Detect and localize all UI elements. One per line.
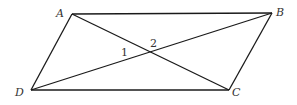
vertex-label-b: B xyxy=(275,6,284,19)
vertex-label-c: C xyxy=(232,86,241,99)
vertex-label-a: A xyxy=(55,7,64,20)
vertex-label-d: D xyxy=(14,86,24,99)
angle-label-1: 1 xyxy=(121,46,128,59)
side-ab xyxy=(72,13,272,14)
angle-label-2: 2 xyxy=(150,37,157,50)
parallelogram-diagram: A B C D 1 2 xyxy=(0,0,297,105)
